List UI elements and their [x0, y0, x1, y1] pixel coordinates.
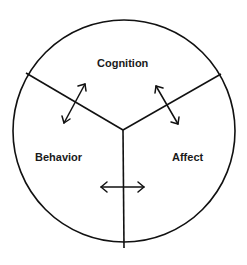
arrow-cognition-affect: [155, 86, 179, 124]
diagram-canvas: [0, 0, 247, 265]
label-affect: Affect: [172, 151, 203, 163]
label-cognition: Cognition: [97, 57, 148, 69]
arrow-cognition-behavior: [62, 84, 86, 123]
label-behavior: Behavior: [35, 151, 82, 163]
divider-bottom: [123, 130, 124, 248]
divider-left: [26, 73, 123, 130]
arrow-behavior-affect: [101, 182, 144, 192]
